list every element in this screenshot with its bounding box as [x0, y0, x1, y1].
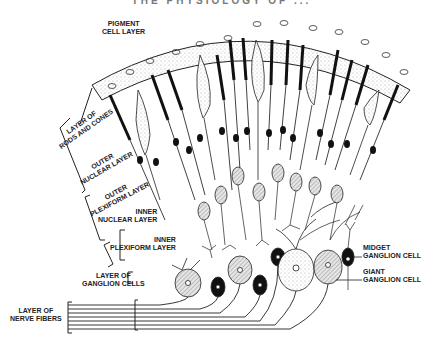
retina-diagram — [0, 0, 443, 353]
label-inner-plexiform-layer: INNER PLEXIFORM LAYER — [110, 236, 176, 252]
label-inner-nuclear-layer: INNER NUCLEAR LAYER — [98, 208, 157, 224]
bipolar-cells — [198, 164, 343, 220]
label-pigment-cell-layer: PIGMENT CELL LAYER — [102, 20, 145, 36]
outer-nuclear-nuclei — [137, 126, 376, 166]
label-nerve-fiber-layer: LAYER OF NERVE FIBERS — [10, 307, 62, 323]
label-ganglion-cell-layer: LAYER OF GANGLION CELLS — [82, 272, 145, 288]
label-giant-ganglion-cell: GIANT GANGLION CELL — [363, 268, 421, 284]
ganglion-cells — [175, 248, 342, 297]
label-midget-ganglion-cell: MIDGET GANGLION CELL — [363, 244, 421, 260]
